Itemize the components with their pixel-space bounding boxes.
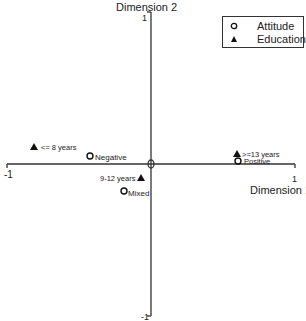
triangle-icon — [30, 143, 38, 150]
triangle-icon — [137, 174, 145, 181]
y-max-tick-label: 1 — [142, 13, 147, 23]
triangle-icon — [233, 150, 241, 157]
point-label-negative: Negative — [95, 153, 127, 162]
circle-icon — [121, 188, 127, 194]
point-label-le8: <= 8 years — [41, 143, 77, 152]
x-min-tick-label: -1 — [4, 169, 13, 180]
circle-icon — [87, 153, 93, 159]
x-axis-title: Dimension 1 — [250, 184, 306, 196]
y-min-tick-label: -1 — [141, 312, 149, 321]
x-max-tick-label: 1 — [292, 174, 297, 184]
legend-label: Education — [257, 32, 306, 46]
point-label-9-12: 9-12 years — [100, 174, 136, 183]
point-label-positive: Positive — [244, 157, 270, 166]
legend-item-education: Education — [223, 32, 303, 46]
circle-icon — [229, 19, 239, 33]
circle-icon — [235, 158, 241, 164]
triangle-icon — [229, 32, 239, 46]
scatter-plot: Dimension 2 1 -1 -1 1 Dimension 1 <= 8 y… — [0, 0, 306, 321]
legend-item-attitude: Attitude — [223, 19, 303, 33]
y-axis-title: Dimension 2 — [116, 1, 177, 13]
legend-label: Attitude — [257, 19, 294, 33]
point-label-mixed: Mixed — [128, 189, 149, 198]
legend: Attitude Education — [222, 16, 304, 48]
